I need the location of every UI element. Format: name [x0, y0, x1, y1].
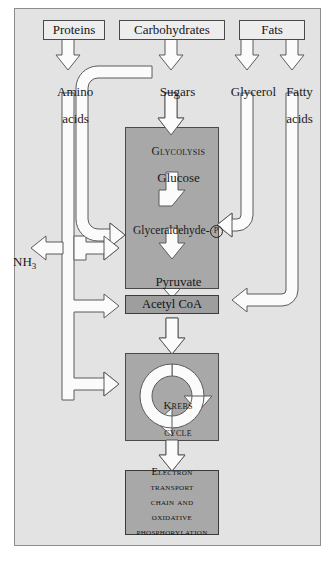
metabolism-figure: Proteins Carbohydrates Fats Amino acids …	[0, 0, 335, 565]
label-fats: Fats	[261, 22, 283, 38]
fatty-acids-line-2: acids	[286, 111, 313, 126]
etc-line-5: phosphorylation	[136, 525, 207, 540]
label-glyceraldehyde-phosphate: Glyceraldehyde-P	[105, 212, 239, 250]
etc-line-1: Electron	[151, 465, 192, 480]
amino-acids-line-2: acids	[62, 111, 89, 126]
ammonia-subscript: 3	[32, 261, 37, 271]
source-box-fats: Fats	[239, 20, 305, 40]
etc-line-2: transport	[150, 480, 193, 495]
label-sugars: Sugars	[143, 71, 199, 112]
phosphate-circle-icon: P	[210, 225, 223, 238]
krebs-line-1: Krebs	[163, 399, 192, 411]
label-ammonia: NH3	[0, 241, 32, 285]
label-proteins: Proteins	[53, 22, 96, 38]
amino-acids-line-1: Amino	[57, 84, 93, 99]
acetyl-coa-box: Acetyl CoA	[125, 295, 219, 314]
etc-line-3: chain and	[151, 495, 194, 510]
label-fatty-acids: Fatty acids	[266, 71, 320, 139]
label-acetyl-coa: Acetyl CoA	[142, 297, 202, 312]
source-box-carbohydrates: Carbohydrates	[119, 20, 225, 40]
fatty-acids-line-1: Fatty	[286, 84, 313, 99]
krebs-line-2: cycle	[164, 426, 192, 438]
label-krebs-cycle: Krebs cycle	[140, 385, 204, 454]
electron-transport-box: Electron transport chain and oxidative p…	[125, 470, 219, 535]
label-amino-acids: Amino acids	[38, 71, 100, 139]
etc-line-4: oxidative	[152, 510, 192, 525]
label-carbohydrates: Carbohydrates	[134, 22, 210, 38]
glyceraldehyde-text: Glyceraldehyde-	[133, 224, 210, 236]
source-box-proteins: Proteins	[43, 20, 105, 40]
label-glucose: Glucose	[125, 157, 219, 198]
